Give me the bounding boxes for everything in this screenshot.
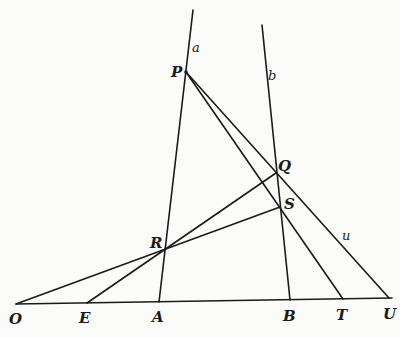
line-PU [186,72,389,298]
point-label-E: E [78,309,91,327]
line-a [159,10,193,302]
point-label-B: B [282,307,296,325]
line-label-a: a [192,40,200,55]
base-line-OU [16,298,392,304]
point-label-O: O [9,310,22,328]
line-EQ [87,173,276,303]
line-OS [16,207,280,304]
diagram-canvas: a b u P Q S R O E A B T U [0,0,400,337]
point-label-Q: Q [278,157,291,175]
point-label-A: A [150,308,164,326]
line-label-u: u [342,228,350,243]
point-label-U: U [383,305,397,323]
point-label-T: T [336,306,349,324]
point-label-R: R [149,234,162,252]
line-PT [186,72,343,299]
projective-diagram: a b u P Q S R O E A B T U [0,0,400,337]
point-label-P: P [170,63,183,81]
point-P-marker [184,70,188,74]
line-label-b: b [268,68,276,83]
point-label-S: S [284,195,295,213]
